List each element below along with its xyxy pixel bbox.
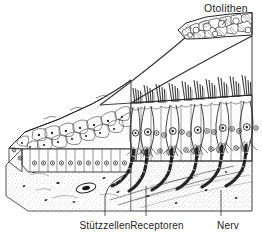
- label-stuetzzellen: Stützzellen: [79, 220, 130, 231]
- macula-diagram: Otolithen Stützzellen Receptoren Nerv: [0, 0, 262, 233]
- figure-container: Otolithen Stützzellen Receptoren Nerv: [0, 0, 262, 233]
- supporting-cells-columnar: [9, 148, 131, 172]
- label-otolithen: Otolithen: [204, 2, 248, 14]
- label-nerv: Nerv: [217, 220, 239, 231]
- connective-tissue-right: [131, 160, 252, 211]
- label-receptoren: Receptoren: [130, 220, 184, 231]
